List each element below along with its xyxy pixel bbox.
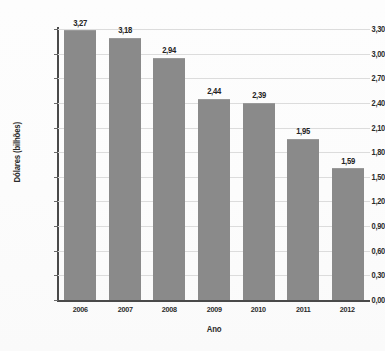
x-tick-label-2006: 2006 xyxy=(60,306,100,314)
bar-2011 xyxy=(287,139,319,300)
bar-group: 3,27 xyxy=(64,29,96,300)
bar-2006 xyxy=(64,30,96,300)
x-tick-label-2007: 2007 xyxy=(105,306,145,314)
x-axis-baseline xyxy=(58,300,370,302)
y-axis-title: Dólares (bilhões) xyxy=(13,79,22,226)
bar-value-label: 1,95 xyxy=(289,127,318,136)
bar-group: 3,18 xyxy=(109,29,141,300)
bar-value-label: 3,18 xyxy=(110,26,139,35)
bar-value-label: 2,39 xyxy=(244,91,273,100)
bar-group: 2,94 xyxy=(153,29,185,300)
bar-group: 1,59 xyxy=(332,29,364,300)
x-tick-label-2012: 2012 xyxy=(328,306,368,314)
bar-value-label: 2,94 xyxy=(155,46,184,55)
bar-value-label: 2,44 xyxy=(200,87,229,96)
bar-2012 xyxy=(332,168,364,300)
x-tick-label-2010: 2010 xyxy=(239,306,279,314)
x-tick-label-2008: 2008 xyxy=(149,306,189,314)
bar-2010 xyxy=(243,103,275,300)
bar-2008 xyxy=(153,58,185,300)
bar-group: 2,44 xyxy=(198,29,230,300)
bar-group: 2,39 xyxy=(243,29,275,300)
y-tick-mark xyxy=(54,300,58,301)
bar-2009 xyxy=(198,99,230,300)
chart-page: Dólares (bilhões) 0,000,300,600,901,201,… xyxy=(0,0,385,351)
plot-area: 3,273,182,942,442,391,951,59 xyxy=(58,29,370,300)
x-axis-title: Ano xyxy=(70,325,357,334)
bar-2007 xyxy=(109,38,141,300)
x-tick-label-2009: 2009 xyxy=(194,306,234,314)
bar-value-label: 3,27 xyxy=(66,19,95,28)
bar-value-label: 1,59 xyxy=(333,157,362,166)
x-tick-label-2011: 2011 xyxy=(283,306,323,314)
bar-group: 1,95 xyxy=(287,29,319,300)
